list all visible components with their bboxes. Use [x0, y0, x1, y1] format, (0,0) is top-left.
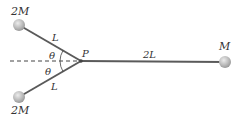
pivot-point	[79, 59, 83, 63]
right-mass-label: M	[218, 40, 231, 53]
pivot-label: P	[81, 48, 89, 59]
diagram-canvas: 2M 2M M L L 2L θ θ P	[0, 0, 240, 119]
bottom-left-mass-label: 2M	[10, 104, 30, 117]
top-left-mass-label: 2M	[10, 5, 30, 18]
lower-angle-label: θ	[45, 66, 51, 77]
right-rod	[81, 61, 225, 62]
lower-rod-length-label: L	[50, 81, 58, 92]
lower-angle-arc	[60, 61, 63, 72]
upper-rod-length-label: L	[51, 32, 59, 43]
upper-angle-label: θ	[49, 50, 55, 61]
right-ball	[219, 56, 231, 68]
upper-angle-arc	[60, 51, 63, 62]
top-left-ball	[13, 19, 25, 31]
right-rod-length-label: 2L	[142, 49, 156, 60]
mass-system-diagram: 2M 2M M L L 2L θ θ P	[0, 0, 240, 119]
bottom-left-ball	[13, 91, 25, 103]
